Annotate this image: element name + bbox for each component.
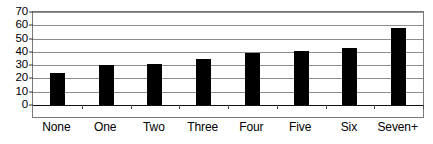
x-tick-mark	[326, 105, 327, 109]
y-tick-label: 20	[16, 73, 28, 85]
y-tick-label: 70	[16, 6, 28, 18]
x-tick-mark	[423, 105, 424, 109]
bar-slot	[374, 12, 423, 105]
bar-slot	[228, 12, 277, 105]
bar	[147, 64, 162, 105]
bars-layer	[33, 12, 423, 117]
x-tick-mark	[277, 105, 278, 109]
bar-slot	[277, 12, 326, 105]
x-tick-mark	[82, 105, 83, 109]
bar	[342, 48, 357, 105]
x-axis-category-label: Seven+	[377, 120, 417, 134]
bar	[50, 73, 65, 105]
x-tick-mark	[131, 105, 132, 109]
x-axis-category-label: Two	[143, 120, 165, 134]
y-tick-label: 0	[22, 99, 28, 111]
x-axis-labels: NoneOneTwoThreeFourFiveSixSeven+	[32, 120, 424, 140]
bar	[245, 53, 260, 105]
x-tick-mark	[228, 105, 229, 109]
bar-slot	[179, 12, 228, 105]
x-axis-category-label: None	[42, 120, 70, 134]
x-tick-mark	[374, 105, 375, 109]
bar	[99, 65, 114, 105]
bar-slot	[326, 12, 375, 105]
y-tick-label: 40	[16, 46, 28, 58]
x-axis-category-label: Five	[289, 120, 311, 134]
y-tick-label: 60	[16, 20, 28, 32]
bar	[196, 59, 211, 106]
bar-slot	[131, 12, 180, 105]
y-tick-label: 50	[16, 33, 28, 45]
bar	[294, 51, 309, 105]
y-tick-label: 30	[16, 59, 28, 71]
plot-area: 010203040506070	[32, 11, 424, 118]
y-tick-label: 10	[16, 86, 28, 98]
bar-slot	[33, 12, 82, 105]
bar-chart: 010203040506070 NoneOneTwoThreeFourFiveS…	[0, 0, 433, 144]
bar-slot	[82, 12, 131, 105]
x-axis-category-label: Four	[239, 120, 263, 134]
x-tick-mark	[179, 105, 180, 109]
bar	[391, 28, 406, 105]
x-axis-category-label: One	[94, 120, 116, 134]
x-axis-category-label: Three	[187, 120, 218, 134]
x-axis-category-label: Six	[341, 120, 357, 134]
